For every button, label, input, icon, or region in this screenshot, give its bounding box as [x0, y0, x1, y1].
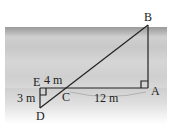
label-B: B [144, 11, 152, 23]
label-C: C [62, 91, 70, 103]
measure-EC: 4 m [44, 74, 62, 86]
measure-ED: 3 m [17, 92, 35, 104]
label-E: E [33, 76, 40, 88]
label-A: A [151, 85, 160, 97]
measure-CA: 12 m [94, 92, 118, 104]
right-angle-E-icon [40, 88, 46, 95]
right-angle-A-icon [141, 81, 148, 88]
label-D: D [36, 110, 45, 122]
